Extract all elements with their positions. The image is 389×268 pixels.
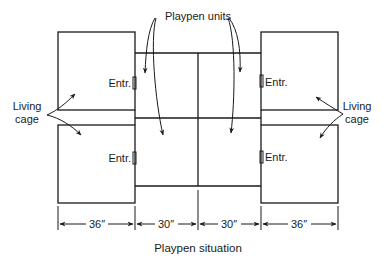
diagram-caption: Playpen situation <box>154 242 242 254</box>
living-cage-top-left <box>58 32 135 110</box>
dimension-label-left-cage: 36″ <box>89 218 105 230</box>
dimension-label-right-cage: 36″ <box>291 218 307 230</box>
arrow-living-cage-bottom-right-icon <box>320 114 343 138</box>
arrow-living-cage-top-left-icon <box>47 94 75 115</box>
living-cage-right-label-line1: Living <box>343 100 372 112</box>
playpen-units-label: Playpen units <box>165 10 232 22</box>
arrow-playpen-bottom-right-icon <box>228 18 234 133</box>
dimension-label-left-playpen: 30″ <box>158 218 174 230</box>
living-cage-top-right <box>261 32 338 110</box>
playpen-diagram: Entr. Entr. Entr. Entr. Playpen units Li… <box>0 0 389 268</box>
living-cage-right-label-line2: cage <box>345 113 369 125</box>
living-cage-left-label-line2: cage <box>15 113 39 125</box>
living-cage-bottom-right <box>261 125 338 203</box>
entrance-label-bottom-right: Entr. <box>265 151 288 163</box>
living-cage-bottom-left <box>58 125 135 203</box>
entrance-label-bottom-left: Entr. <box>108 152 131 164</box>
entrance-label-top-left: Entr. <box>108 77 131 89</box>
dimension-label-right-playpen: 30″ <box>221 218 237 230</box>
living-cage-left-label-line1: Living <box>13 100 42 112</box>
entrance-label-top-right: Entr. <box>265 76 288 88</box>
arrow-living-cage-top-right-icon <box>316 97 343 114</box>
